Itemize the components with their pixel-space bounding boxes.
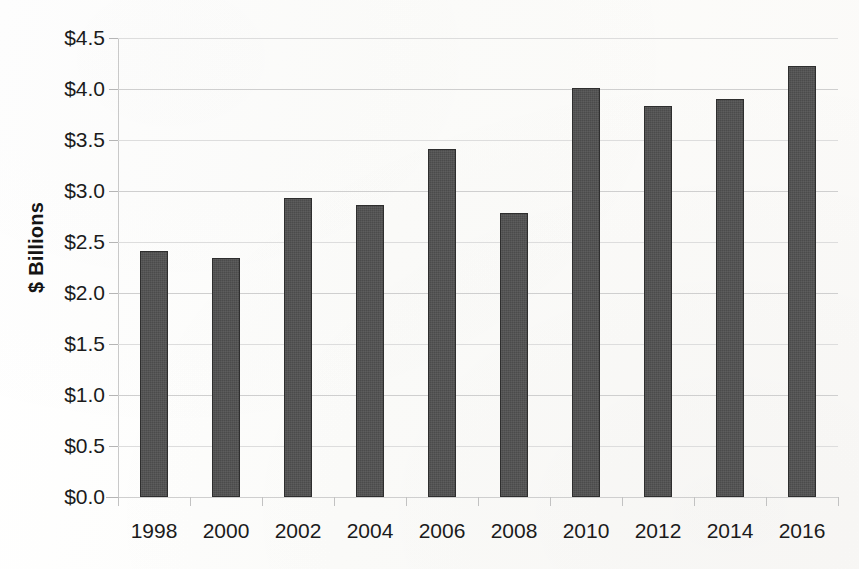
y-tick-mark [109, 395, 118, 396]
x-tick-label: 1998 [131, 519, 178, 543]
x-tick-mark [622, 497, 623, 506]
x-tick-slot: 2014 [694, 38, 766, 497]
x-tick-label: 2002 [275, 519, 322, 543]
x-tick-slot: 2006 [406, 38, 478, 497]
y-tick-mark [109, 89, 118, 90]
y-tick-mark [109, 191, 118, 192]
x-tick-slot: 2016 [766, 38, 838, 497]
y-tick-label: $1.0 [64, 383, 105, 407]
x-tick-mark [262, 497, 263, 506]
y-tick-label: $3.5 [64, 128, 105, 152]
x-tick-mark [478, 497, 479, 506]
x-tick-label: 2012 [635, 519, 682, 543]
x-tick-slot: 2008 [478, 38, 550, 497]
y-tick-label: $1.5 [64, 332, 105, 356]
x-tick-label: 2004 [347, 519, 394, 543]
x-tick-label: 2008 [491, 519, 538, 543]
x-tick-mark [190, 497, 191, 506]
x-tick-slot: 2000 [190, 38, 262, 497]
y-tick-label: $0.5 [64, 434, 105, 458]
y-tick-label: $0.0 [64, 485, 105, 509]
plot-area: $0.0$0.5$1.0$1.5$2.0$2.5$3.0$3.5$4.0$4.5… [118, 38, 838, 497]
x-tick-mark [334, 497, 335, 506]
x-tick-slot: 2002 [262, 38, 334, 497]
y-tick-label: $4.5 [64, 26, 105, 50]
x-tick-mark [406, 497, 407, 506]
x-tick-label: 2016 [779, 519, 826, 543]
x-tick-mark [766, 497, 767, 506]
y-tick-mark [109, 242, 118, 243]
y-tick-mark [109, 293, 118, 294]
x-tick-slot: 2010 [550, 38, 622, 497]
y-tick-mark [109, 38, 118, 39]
x-tick-label: 2010 [563, 519, 610, 543]
y-tick-label: $2.5 [64, 230, 105, 254]
y-tick-mark [109, 446, 118, 447]
y-tick-label: $3.0 [64, 179, 105, 203]
x-tick-mark [118, 497, 119, 506]
x-tick-mark [550, 497, 551, 506]
x-tick-slot: 2012 [622, 38, 694, 497]
y-tick-mark [109, 497, 118, 498]
x-tick-slot: 1998 [118, 38, 190, 497]
x-tick-label: 2014 [707, 519, 754, 543]
y-tick-mark [109, 140, 118, 141]
chart-page: $ Billions $0.0$0.5$1.0$1.5$2.0$2.5$3.0$… [0, 0, 859, 569]
y-tick-label: $2.0 [64, 281, 105, 305]
x-tick-mark [838, 497, 839, 506]
y-tick-label: $4.0 [64, 77, 105, 101]
x-tick-slot: 2004 [334, 38, 406, 497]
x-tick-label: 2000 [203, 519, 250, 543]
y-tick-mark [109, 344, 118, 345]
x-tick-label: 2006 [419, 519, 466, 543]
x-tick-mark [694, 497, 695, 506]
y-axis-title: $ Billions [25, 178, 48, 318]
